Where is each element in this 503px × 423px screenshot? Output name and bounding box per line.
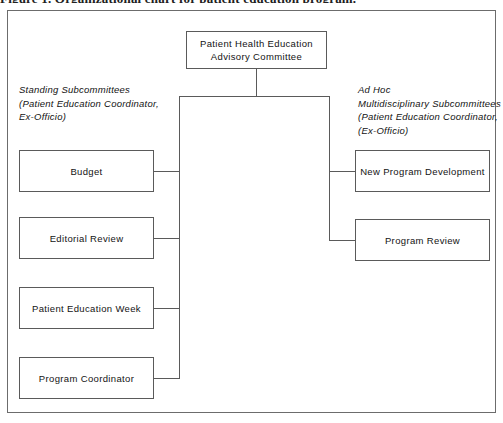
header-ad-hoc-subcommittees: Ad Hoc Multidisciplinary Subcommittees (…: [358, 83, 503, 137]
connector-program-coordinator: [154, 378, 180, 379]
box-budget-label: Budget: [70, 165, 102, 178]
box-new-program-development-label: New Program Development: [360, 165, 485, 178]
box-program-coordinator-label: Program Coordinator: [39, 372, 134, 385]
connector-left-trunk: [179, 96, 180, 378]
box-program-coordinator[interactable]: Program Coordinator: [19, 357, 154, 399]
box-editorial-review[interactable]: Editorial Review: [19, 217, 154, 259]
box-advisory-committee[interactable]: Patient Health Education Advisory Commit…: [186, 31, 327, 69]
figure-caption: Figure 1. Organizational chart for patie…: [0, 0, 503, 3]
box-patient-education-week[interactable]: Patient Education Week: [19, 287, 154, 329]
box-program-review-label: Program Review: [385, 234, 460, 247]
connector-new-program-development: [329, 171, 355, 172]
figure-frame: Patient Health Education Advisory Commit…: [7, 10, 496, 413]
box-advisory-committee-line1: Patient Health Education: [200, 37, 313, 50]
header-standing-subcommittees: Standing Subcommittees (Patient Educatio…: [19, 83, 179, 124]
box-advisory-committee-line2: Advisory Committee: [211, 50, 302, 63]
connector-right-trunk: [329, 96, 330, 240]
box-editorial-review-label: Editorial Review: [50, 232, 124, 245]
connector-editorial-review: [154, 238, 180, 239]
box-program-review[interactable]: Program Review: [355, 219, 490, 261]
connector-patient-education-week: [154, 308, 180, 309]
connector-root-stem: [256, 69, 257, 96]
box-patient-education-week-label: Patient Education Week: [32, 302, 141, 315]
connector-distribution-bar: [179, 96, 329, 97]
box-new-program-development[interactable]: New Program Development: [355, 150, 490, 192]
connector-program-review: [329, 240, 355, 241]
box-budget[interactable]: Budget: [19, 150, 154, 192]
connector-budget: [154, 171, 180, 172]
